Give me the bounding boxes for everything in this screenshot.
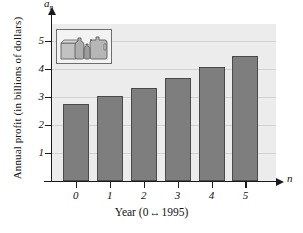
- x-axis-line: [44, 181, 277, 182]
- y-tick-2: [45, 125, 52, 126]
- x-tick-3: [178, 182, 179, 188]
- x-tick-label-4: 4: [204, 189, 220, 201]
- bottles-icon: [57, 30, 111, 63]
- y-axis-title-text: Annual profit (in billions of dollars): [11, 17, 23, 179]
- x-tick-label-2: 2: [136, 189, 152, 201]
- x-axis-title: Year (0↔1995): [0, 206, 303, 218]
- y-tick-5: [45, 41, 52, 42]
- bar-n-0: [63, 104, 89, 181]
- y-tick-label-3: 3: [30, 90, 44, 102]
- x-tick-2: [144, 182, 145, 188]
- y-tick-label-4: 4: [30, 62, 44, 74]
- bar-n-3: [165, 78, 191, 181]
- x-axis-title-suffix: 1995): [161, 206, 188, 218]
- double-arrow-icon: ↔: [148, 206, 161, 218]
- product-illustration-inset: [56, 29, 112, 64]
- bar-n-2: [131, 88, 157, 181]
- x-axis-variable-label: n: [287, 172, 293, 184]
- x-tick-label-1: 1: [102, 189, 118, 201]
- y-tick-label-5: 5: [30, 34, 44, 46]
- y-axis-variable-label: an: [44, 0, 53, 12]
- x-tick-1: [110, 182, 111, 188]
- x-axis-title-prefix: Year (0: [115, 206, 149, 218]
- x-tick-5: [245, 182, 246, 188]
- bar-n-4: [199, 67, 225, 181]
- x-tick-label-5: 5: [237, 189, 253, 201]
- y-tick-label-2: 2: [30, 118, 44, 130]
- x-tick-0: [76, 182, 77, 188]
- x-tick-label-3: 3: [170, 189, 186, 201]
- y-tick-4: [45, 69, 52, 70]
- x-axis-arrow-icon: [276, 178, 284, 186]
- bar-chart-figure: Annual profit (in billions of dollars) 1…: [0, 0, 303, 233]
- x-tick-4: [212, 182, 213, 188]
- bar-n-5: [232, 56, 258, 181]
- y-axis-title: Annual profit (in billions of dollars): [9, 8, 25, 188]
- y-tick-label-1: 1: [30, 146, 44, 158]
- y-tick-1: [45, 153, 52, 154]
- x-tick-label-0: 0: [68, 189, 84, 201]
- bar-n-1: [97, 96, 123, 181]
- y-axis-variable-subscript: n: [50, 3, 54, 12]
- y-tick-3: [45, 97, 52, 98]
